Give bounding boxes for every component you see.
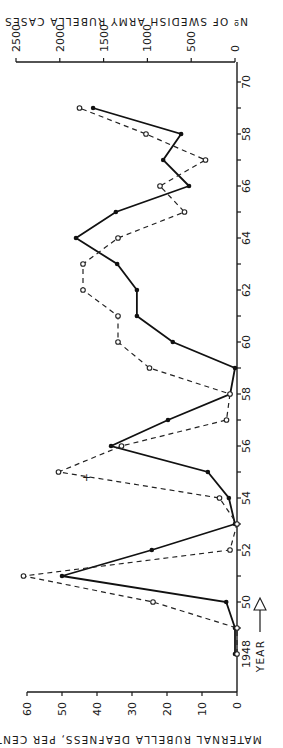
year-first-label: 1948 [240, 640, 253, 668]
army-cases-point [135, 314, 140, 319]
year-tick-label: 56 [240, 439, 253, 453]
year-axis-title: YEAR [254, 640, 266, 673]
year-tick-label: 60 [240, 335, 253, 349]
army-cases-point [60, 574, 65, 579]
year-tick-label: 64 [240, 231, 253, 245]
army-cases-point [135, 288, 140, 293]
deafness-point [147, 366, 152, 371]
deafness-point [203, 158, 208, 163]
bottom-axis-tick-label: 50 [56, 702, 69, 716]
army-cases-point [109, 444, 114, 449]
deafness-point [144, 132, 149, 137]
series-army-cases [60, 106, 238, 657]
army-cases-point [161, 158, 166, 163]
rubella-chart: 05001000150020002500 0102030405060 50525… [0, 0, 283, 748]
year-tick-label: 62 [240, 283, 253, 297]
army-cases-point [115, 262, 120, 267]
army-cases-point [179, 132, 184, 137]
deafness-point [228, 548, 233, 553]
army-cases-point [74, 236, 79, 241]
year-arrow-icon [254, 598, 266, 610]
deafness-point [235, 652, 240, 657]
army-cases-point [114, 210, 119, 215]
bottom-axis-title: MATERNAL RUBELLA DEAFNESS, PER CENT [0, 734, 262, 746]
year-tick-label: 58 [240, 127, 253, 141]
army-cases-point [171, 340, 176, 345]
deafness-point [81, 262, 86, 267]
top-axis-title: Nº OF SWEDISH ARMY RUBELLA CASES [4, 16, 248, 28]
bottom-axis-tick-label: 10 [196, 702, 209, 716]
year-tick-label: 58 [240, 387, 253, 401]
bottom-axis-tick-label: 30 [126, 702, 139, 716]
deafness-point [235, 522, 240, 527]
army-cases-point [149, 548, 154, 553]
deafness-point [217, 496, 222, 501]
army-cases-point [224, 600, 229, 605]
bottom-axis-tick-label: 0 [231, 702, 244, 709]
army-cases-point [233, 366, 238, 371]
deafness-point [116, 340, 121, 345]
plus-marker: + [82, 471, 91, 484]
deafness-point [235, 626, 240, 631]
deafness-point [151, 600, 156, 605]
year-tick-label: 54 [240, 491, 253, 505]
top-axis-tick-label: 500 [185, 31, 198, 52]
deafness-point [228, 392, 233, 397]
deafness-point [182, 210, 187, 215]
year-tick-label: 50 [240, 595, 253, 609]
deafness-point [21, 574, 26, 579]
annotations: + [82, 471, 91, 484]
army-cases-point [91, 106, 96, 111]
deafness-point [56, 470, 61, 475]
deafness-point [119, 444, 124, 449]
deafness-point [81, 288, 86, 293]
bottom-axis-tick-label: 40 [91, 702, 104, 716]
deafness-point [158, 184, 163, 189]
top-axis-tick-label: 0 [229, 45, 242, 52]
bottom-axis-tick-label: 20 [161, 702, 174, 716]
year-axis: 50525456586062646658701948YEAR [237, 62, 266, 692]
deafness-point [224, 418, 229, 423]
deafness-point [77, 106, 82, 111]
army-cases-point [227, 496, 232, 501]
army-cases-point [206, 470, 211, 475]
deafness-point [116, 236, 121, 241]
army-cases-line [62, 108, 235, 654]
deafness-point [116, 314, 121, 319]
bottom-axis: 0102030405060 [21, 692, 244, 716]
army-cases-point [187, 184, 192, 189]
year-tick-label: 70 [240, 75, 253, 89]
bottom-axis-tick-label: 60 [21, 702, 34, 716]
year-tick-label: 66 [240, 179, 253, 193]
series-deafness-percent [21, 106, 239, 657]
top-axis: 05001000150020002500 [10, 24, 242, 62]
deafness-line [24, 108, 238, 654]
army-cases-point [166, 418, 171, 423]
year-tick-label: 52 [240, 543, 253, 557]
